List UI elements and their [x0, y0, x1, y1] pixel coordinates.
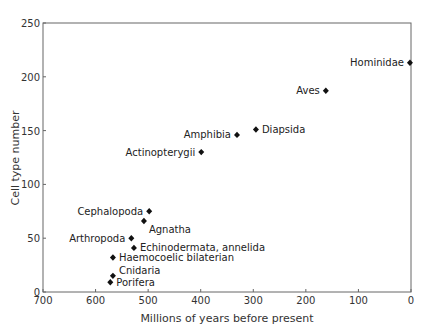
x-axis-title: Millions of years before present	[140, 312, 314, 325]
x-tick-label: 0	[408, 295, 414, 306]
data-points: HominidaeAvesDiapsidaAmphibiaActinoptery…	[69, 57, 413, 288]
diamond-marker-icon	[128, 235, 134, 241]
y-tick-label: 200	[21, 72, 40, 83]
data-point: Cephalopoda	[77, 206, 152, 217]
y-axis: 050100150200250	[21, 18, 46, 298]
point-label: Arthropoda	[69, 233, 125, 244]
point-label: Hominidae	[350, 57, 404, 68]
data-point: Porifera	[107, 277, 155, 288]
data-point: Haemocoelic bilaterian	[110, 252, 234, 263]
point-label: Cephalopoda	[77, 206, 143, 217]
diamond-marker-icon	[198, 149, 204, 155]
point-label: Cnidaria	[119, 265, 161, 276]
data-point: Actinopterygii	[126, 147, 205, 158]
x-tick-label: 400	[191, 295, 210, 306]
x-tick-label: 200	[296, 295, 315, 306]
data-point: Hominidae	[350, 57, 413, 68]
y-tick-label: 100	[21, 179, 40, 190]
diamond-marker-icon	[110, 273, 116, 279]
diamond-marker-icon	[107, 279, 113, 285]
y-tick-label: 50	[27, 233, 40, 244]
diamond-marker-icon	[407, 60, 413, 66]
point-label: Aves	[296, 85, 320, 96]
diamond-marker-icon	[323, 88, 329, 94]
x-tick-label: 300	[244, 295, 263, 306]
diamond-marker-icon	[141, 218, 147, 224]
x-tick-label: 500	[139, 295, 158, 306]
y-axis-title: Cell type number	[9, 110, 22, 206]
scatter-chart: 7006005004003002001000 050100150200250 M…	[0, 0, 428, 333]
point-label: Actinopterygii	[126, 147, 196, 158]
point-label: Agnatha	[149, 224, 191, 235]
point-label: Haemocoelic bilaterian	[119, 252, 234, 263]
x-tick-label: 600	[86, 295, 105, 306]
y-tick-label: 0	[34, 287, 40, 298]
diamond-marker-icon	[131, 245, 137, 251]
diamond-marker-icon	[110, 254, 116, 260]
data-point: Amphibia	[184, 129, 240, 140]
y-tick-label: 150	[21, 126, 40, 137]
data-point: Arthropoda	[69, 233, 134, 244]
x-tick-label: 100	[349, 295, 368, 306]
data-point: Aves	[296, 85, 329, 96]
point-label: Porifera	[116, 277, 155, 288]
diamond-marker-icon	[234, 132, 240, 138]
diamond-marker-icon	[253, 126, 259, 132]
data-point: Diapsida	[253, 124, 305, 135]
y-tick-label: 250	[21, 18, 40, 29]
point-label: Amphibia	[184, 129, 231, 140]
data-point: Agnatha	[141, 218, 191, 235]
diamond-marker-icon	[146, 208, 152, 214]
point-label: Diapsida	[262, 124, 305, 135]
